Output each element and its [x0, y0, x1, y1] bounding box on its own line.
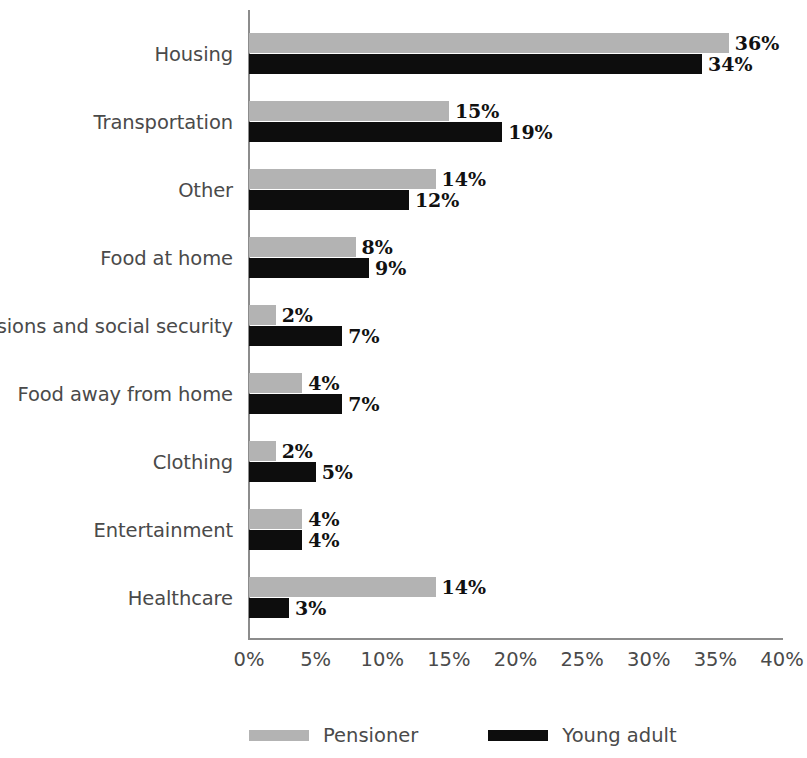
- bar-row: 12%: [249, 190, 459, 210]
- bar-group: Transportation15%19%: [249, 100, 782, 144]
- bar-pensioner: [249, 237, 356, 257]
- bar-value-label: 2%: [282, 441, 313, 461]
- bar-value-label: 7%: [348, 394, 379, 414]
- category-label: Housing: [154, 32, 233, 76]
- bar-value-label: 15%: [455, 101, 500, 121]
- bar-young-adult: [249, 462, 316, 482]
- bar-row: 14%: [249, 169, 486, 189]
- bar-pensioner: [249, 101, 449, 121]
- category-label: Transportation: [94, 100, 233, 144]
- x-tick-label: 35%: [694, 648, 737, 671]
- bar-row: 19%: [249, 122, 553, 142]
- bar-row: 2%: [249, 441, 313, 461]
- x-tick-label: 10%: [361, 648, 404, 671]
- category-label: Entertainment: [94, 508, 233, 552]
- bar-young-adult: [249, 258, 369, 278]
- x-tick-label: 30%: [627, 648, 670, 671]
- x-tick-label: 0%: [234, 648, 265, 671]
- bar-pensioner: [249, 577, 436, 597]
- bar-value-label: 14%: [442, 169, 487, 189]
- x-tick-label: 15%: [427, 648, 470, 671]
- bar-value-label: 5%: [322, 462, 353, 482]
- bar-row: 9%: [249, 258, 406, 278]
- bar-group: Housing36%34%: [249, 32, 782, 76]
- bar-young-adult: [249, 326, 342, 346]
- bar-pensioner: [249, 169, 436, 189]
- category-label: Food away from home: [17, 372, 233, 416]
- bar-group: Other14%12%: [249, 168, 782, 212]
- bar-row: 3%: [249, 598, 326, 618]
- bar-group: Healthcare14%3%: [249, 576, 782, 620]
- bar-group: Pensions and social security2%7%: [249, 304, 782, 348]
- bar-young-adult: [249, 54, 702, 74]
- bar-value-label: 8%: [362, 237, 393, 257]
- bar-young-adult: [249, 190, 409, 210]
- grouped-bar-chart: Housing36%34%Transportation15%19%Other14…: [0, 0, 807, 758]
- bar-value-label: 36%: [735, 33, 780, 53]
- bar-value-label: 12%: [415, 190, 460, 210]
- category-label: Pensions and social security: [0, 304, 233, 348]
- bar-young-adult: [249, 598, 289, 618]
- bar-row: 4%: [249, 373, 340, 393]
- legend-swatch-young-adult-icon: [488, 730, 548, 741]
- bar-value-label: 7%: [348, 326, 379, 346]
- x-tick-label: 25%: [560, 648, 603, 671]
- chart-legend: Pensioner Young adult: [249, 722, 689, 748]
- x-tick-label: 5%: [300, 648, 331, 671]
- bar-group: Food away from home4%7%: [249, 372, 782, 416]
- plot-area: Housing36%34%Transportation15%19%Other14…: [249, 10, 782, 638]
- bar-pensioner: [249, 509, 302, 529]
- bar-row: 4%: [249, 509, 340, 529]
- bar-group: Entertainment4%4%: [249, 508, 782, 552]
- bar-value-label: 2%: [282, 305, 313, 325]
- category-label: Clothing: [153, 440, 233, 484]
- x-tick-label: 20%: [494, 648, 537, 671]
- bar-row: 4%: [249, 530, 340, 550]
- category-label: Healthcare: [128, 576, 233, 620]
- bar-value-label: 3%: [295, 598, 326, 618]
- bar-pensioner: [249, 373, 302, 393]
- legend-swatch-pensioner-icon: [249, 730, 309, 741]
- bar-pensioner: [249, 441, 276, 461]
- legend-item-pensioner: Pensioner: [249, 724, 418, 747]
- bar-row: 7%: [249, 394, 380, 414]
- bar-value-label: 4%: [308, 373, 339, 393]
- legend-label-young-adult: Young adult: [562, 724, 676, 747]
- x-axis-line: [248, 638, 783, 640]
- bar-row: 2%: [249, 305, 313, 325]
- bar-value-label: 19%: [508, 122, 553, 142]
- bar-group: Clothing2%5%: [249, 440, 782, 484]
- bar-value-label: 34%: [708, 54, 753, 74]
- category-label: Other: [178, 168, 233, 212]
- bar-young-adult: [249, 394, 342, 414]
- bar-value-label: 9%: [375, 258, 406, 278]
- legend-label-pensioner: Pensioner: [323, 724, 418, 747]
- bar-row: 5%: [249, 462, 353, 482]
- bar-value-label: 4%: [308, 509, 339, 529]
- bar-row: 8%: [249, 237, 393, 257]
- bar-row: 7%: [249, 326, 380, 346]
- bar-value-label: 14%: [442, 577, 487, 597]
- legend-item-young-adult: Young adult: [488, 724, 676, 747]
- bar-row: 15%: [249, 101, 499, 121]
- bar-group: Food at home8%9%: [249, 236, 782, 280]
- bar-row: 34%: [249, 54, 753, 74]
- bar-value-label: 4%: [308, 530, 339, 550]
- bar-pensioner: [249, 33, 729, 53]
- bar-pensioner: [249, 305, 276, 325]
- x-tick-label: 40%: [760, 648, 803, 671]
- bar-young-adult: [249, 530, 302, 550]
- category-label: Food at home: [100, 236, 233, 280]
- bar-young-adult: [249, 122, 502, 142]
- bar-row: 36%: [249, 33, 779, 53]
- bar-row: 14%: [249, 577, 486, 597]
- x-axis-tick-labels: 0%5%10%15%20%25%30%35%40%: [249, 648, 782, 682]
